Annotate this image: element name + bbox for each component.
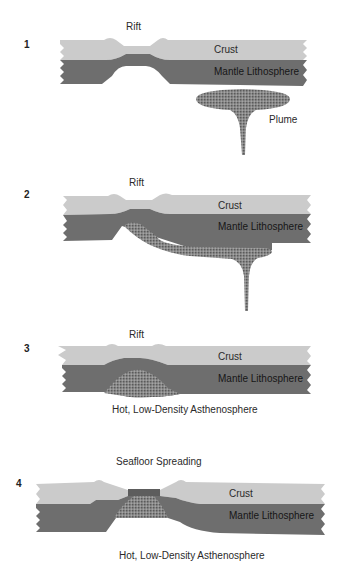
- panel-number: 2: [24, 189, 30, 200]
- panel-number: 1: [24, 39, 30, 50]
- plume-label: Plume: [269, 114, 298, 125]
- crust-label: Crust: [214, 44, 238, 55]
- crust-layer: [60, 38, 307, 60]
- panel-1: 1 Rift Crust Mantle Lithosphere Plume: [24, 21, 307, 155]
- rift-label: Rift: [129, 177, 144, 188]
- mantle-lithosphere-label: Mantle Lithosphere: [214, 66, 299, 77]
- crust-layer: [58, 344, 311, 365]
- rift-label: Rift: [129, 329, 144, 340]
- asthenosphere-label: Hot, Low-Density Asthenosphere: [112, 404, 258, 415]
- panel-4: 4 Seafloor Spreading Crust Mantle Lithos…: [16, 456, 325, 561]
- panel-number: 3: [24, 343, 30, 354]
- crust-label: Crust: [229, 488, 253, 499]
- rift-label: Rift: [126, 21, 141, 32]
- mantle-lithosphere-label: Mantle Lithosphere: [229, 510, 314, 521]
- crust-layer: [63, 194, 311, 216]
- panel-number: 4: [16, 478, 22, 489]
- seafloor-spreading-label: Seafloor Spreading: [116, 456, 202, 467]
- asthenosphere-label: Hot, Low-Density Asthenosphere: [119, 550, 265, 561]
- new-oceanic-crust: [128, 489, 160, 496]
- mantle-lithosphere-label: Mantle Lithosphere: [218, 221, 303, 232]
- mantle-lithosphere-label: Mantle Lithosphere: [218, 373, 303, 384]
- crust-label: Crust: [218, 200, 242, 211]
- panel-2: 2 Rift Crust Mantle Lithosphere: [24, 177, 311, 311]
- crust-label: Crust: [218, 351, 242, 362]
- panel-3: 3 Rift Crust Mantle Lithosphere Hot, Low…: [24, 329, 311, 415]
- rifting-diagram: 1 Rift Crust Mantle Lithosphere Plume 2 …: [0, 0, 343, 575]
